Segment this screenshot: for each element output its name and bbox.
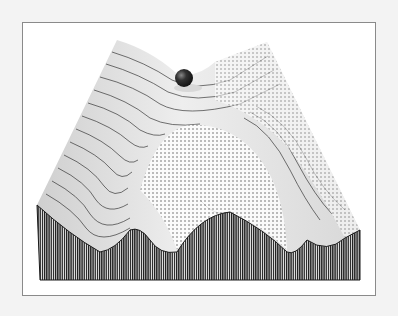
landscape-illustration	[0, 0, 398, 316]
ball	[175, 69, 193, 87]
